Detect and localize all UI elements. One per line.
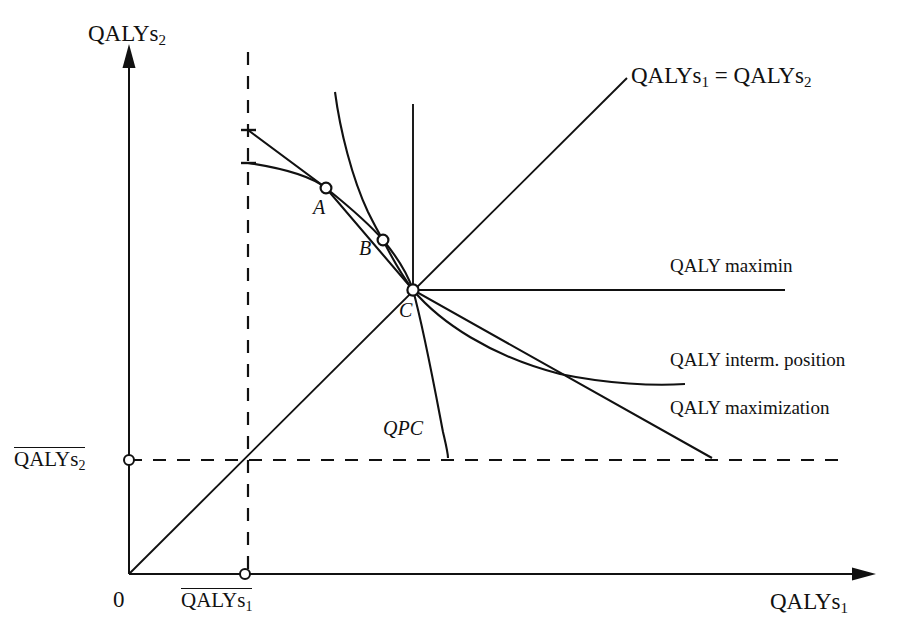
y-axis-label-text: QALYs bbox=[88, 21, 159, 46]
origin-label: 0 bbox=[113, 588, 125, 611]
qpc-possibility-curve bbox=[248, 163, 448, 458]
legend-label-maximization: QALY maximization bbox=[670, 398, 829, 417]
equality-line-qalys1-equals-qalys2 bbox=[129, 78, 627, 574]
equality-right-text: QALYs bbox=[734, 63, 805, 88]
point-label-b: B bbox=[359, 238, 371, 258]
qaly-maximization-line bbox=[248, 130, 712, 458]
x-threshold-label: QALYs1 bbox=[181, 588, 252, 614]
x-axis-label: QALYs1 bbox=[770, 590, 848, 616]
equality-line-label: QALYs1 = QALYs2 bbox=[631, 64, 812, 90]
x-axis-label-text: QALYs bbox=[770, 589, 841, 614]
y-threshold-marker bbox=[124, 455, 134, 465]
legend-label-maximin: QALY maximin bbox=[670, 256, 792, 275]
point-marker-b bbox=[378, 235, 389, 246]
equality-left-subscript: 1 bbox=[702, 74, 710, 90]
x-axis-label-subscript: 1 bbox=[841, 600, 849, 616]
equality-equals-sign: = bbox=[709, 63, 733, 88]
x-threshold-marker bbox=[240, 569, 250, 579]
y-axis-label: QALYs2 bbox=[88, 22, 166, 48]
point-label-a: A bbox=[313, 197, 325, 217]
figure-canvas bbox=[0, 0, 909, 638]
point-label-c: C bbox=[399, 300, 412, 320]
x-axis-arrowhead-icon bbox=[852, 568, 876, 581]
legend-label-intermediate: QALY interm. position bbox=[670, 350, 845, 369]
y-threshold-label-subscript: 2 bbox=[78, 458, 85, 473]
equality-left-text: QALYs bbox=[631, 63, 702, 88]
qpc-curve-label: QPC bbox=[383, 418, 423, 438]
y-threshold-label-text: QALYs bbox=[14, 447, 78, 471]
x-threshold-label-overline: QALYs1 bbox=[181, 588, 252, 614]
y-threshold-label: QALYs2 bbox=[14, 447, 85, 473]
constraint-lines-group bbox=[129, 52, 845, 574]
qaly-distribution-figure: QALYs2 QALYs1 0 QALYs1 QALYs2 QALYs1 = Q… bbox=[0, 0, 909, 638]
x-threshold-label-text: QALYs bbox=[181, 588, 245, 612]
y-axis-label-subscript: 2 bbox=[159, 32, 167, 48]
y-threshold-label-overline: QALYs2 bbox=[14, 447, 85, 473]
point-marker-c bbox=[407, 284, 418, 295]
point-marker-a bbox=[321, 183, 332, 194]
x-threshold-label-subscript: 1 bbox=[245, 599, 252, 614]
axes-group bbox=[123, 44, 877, 581]
equality-right-subscript: 2 bbox=[804, 74, 812, 90]
